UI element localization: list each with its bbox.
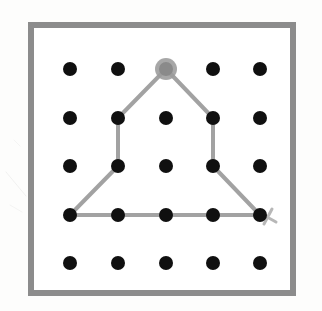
grid-dot-r3-c0: [63, 208, 77, 222]
grid-dot-r3-c1: [111, 208, 125, 222]
grid-dot-r0-c0: [63, 62, 77, 76]
grid-dot-r4-c3: [206, 256, 220, 270]
grid-dot-r4-c2: [159, 256, 173, 270]
grid-dot-r1-c2: [159, 111, 173, 125]
dot-grid-scene: [0, 0, 322, 311]
grid-dot-r2-c4: [253, 159, 267, 173]
grid-dot-r2-c0: [63, 159, 77, 173]
grid-dot-r4-c4: [253, 256, 267, 270]
grid-dot-r3-c4: [253, 208, 267, 222]
grid-dot-r1-c0: [63, 111, 77, 125]
apex-highlight-circle: [155, 58, 177, 80]
grid-dot-r0-c1: [111, 62, 125, 76]
drawing-canvas: Dot grid with hand-drawn house shape Clo…: [0, 0, 322, 311]
grid-dot-r0-c4: [253, 62, 267, 76]
grid-dot-r0-c3: [206, 62, 220, 76]
grid-dot-r4-c1: [111, 256, 125, 270]
grid-dot-r1-c4: [253, 111, 267, 125]
grid-dot-r3-c2: [159, 208, 173, 222]
grid-dot-r4-c0: [63, 256, 77, 270]
grid-dot-r1-c1: [111, 111, 125, 125]
grid-dot-r1-c3: [206, 111, 220, 125]
grid-dot-r3-c3: [206, 208, 220, 222]
grid-dot-r2-c2: [159, 159, 173, 173]
grid-dot-r2-c3: [206, 159, 220, 173]
grid-dot-r2-c1: [111, 159, 125, 173]
